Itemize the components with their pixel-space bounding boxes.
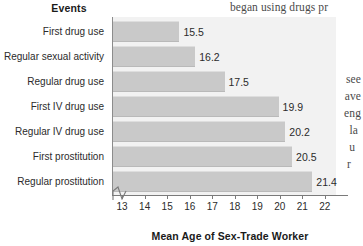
value-label-4: 20.2 xyxy=(289,126,309,138)
x-tick-18 xyxy=(235,195,236,199)
bar-2 xyxy=(113,71,225,92)
x-tick-16 xyxy=(190,195,191,199)
bar-0 xyxy=(113,21,179,42)
x-tick-label-22: 22 xyxy=(319,201,330,212)
category-axis-title: Events xyxy=(0,2,138,14)
bar-3 xyxy=(113,96,279,117)
category-label-6: Regular prostitution xyxy=(0,176,104,187)
bar-5 xyxy=(113,146,292,167)
x-axis-title: Mean Age of Sex-Trade Worker xyxy=(112,230,348,242)
x-tick-label-21: 21 xyxy=(297,201,308,212)
x-tick-22 xyxy=(325,195,326,199)
x-tick-label-19: 19 xyxy=(252,201,263,212)
x-tick-label-16: 16 xyxy=(184,201,195,212)
value-label-5: 20.5 xyxy=(296,151,316,163)
x-tick-label-14: 14 xyxy=(139,201,150,212)
category-label-5: First prostitution xyxy=(0,151,104,162)
x-tick-17 xyxy=(212,195,213,199)
value-label-3: 19.9 xyxy=(283,101,303,113)
x-tick-14 xyxy=(145,195,146,199)
category-label-3: First IV drug use xyxy=(0,101,104,112)
bar-6 xyxy=(113,171,312,192)
x-tick-13 xyxy=(122,195,123,199)
background-text-line-1: began using drugs pr xyxy=(230,1,328,13)
value-label-0: 15.5 xyxy=(183,26,203,38)
category-label-2: Regular drug use xyxy=(0,76,104,87)
x-tick-label-18: 18 xyxy=(229,201,240,212)
x-tick-label-20: 20 xyxy=(274,201,285,212)
value-label-1: 16.2 xyxy=(199,51,219,63)
value-label-6: 21.4 xyxy=(316,176,336,188)
bar-1 xyxy=(113,46,195,67)
x-tick-21 xyxy=(302,195,303,199)
x-axis-line xyxy=(112,195,348,196)
category-label-0: First drug use xyxy=(0,26,104,37)
chart-figure: began using drugs pr graphically illustr… xyxy=(0,0,363,246)
bar-4 xyxy=(113,121,285,142)
x-tick-label-17: 17 xyxy=(207,201,218,212)
x-tick-label-13: 13 xyxy=(117,201,128,212)
value-label-2: 17.5 xyxy=(229,76,249,88)
x-tick-label-15: 15 xyxy=(162,201,173,212)
x-tick-15 xyxy=(167,195,168,199)
x-tick-20 xyxy=(280,195,281,199)
category-label-4: Regular IV drug use xyxy=(0,126,104,137)
x-tick-19 xyxy=(257,195,258,199)
category-label-1: Regular sexual activity xyxy=(0,51,104,62)
